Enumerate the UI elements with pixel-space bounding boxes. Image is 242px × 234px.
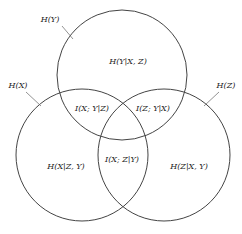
set-label-z: H(Z) (217, 82, 236, 90)
venn-diagram (0, 0, 242, 234)
leader-line-y (62, 26, 73, 39)
region-x-only: H(X|Z, Y) (47, 163, 84, 171)
region-z-only: H(Z|X, Y) (170, 163, 208, 171)
region-x-y: I(X; Y|Z) (75, 105, 109, 113)
region-z-y: I(Z; Y|X) (136, 105, 170, 113)
set-label-y: H(Y) (41, 16, 60, 24)
set-label-x: H(X) (9, 82, 28, 90)
circle-y (57, 10, 187, 140)
leader-line-x (26, 92, 41, 106)
region-x-z: I(X; Z|Y) (105, 156, 139, 164)
region-y-only: H(Y|X, Z) (109, 58, 147, 66)
leader-line-z (204, 92, 219, 106)
